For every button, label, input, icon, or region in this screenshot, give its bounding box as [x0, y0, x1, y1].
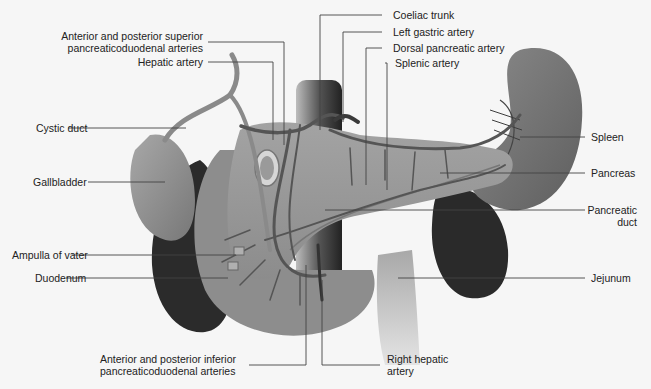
- label-duodenum: Duodenum: [35, 272, 86, 284]
- gallbladder: [130, 134, 195, 240]
- label-line-2: pancreaticoduodenal arteries: [100, 365, 236, 377]
- label-line-1: Anterior and posterior superior: [58, 30, 203, 42]
- anatomy-diagram: Anterior and posterior superior pancreat…: [0, 0, 651, 389]
- label-line-1: Pancreatic: [585, 204, 637, 216]
- label-line-1: Anterior and posterior inferior: [100, 353, 236, 365]
- label-dorsal-pancreatic-artery: Dorsal pancreatic artery: [393, 42, 504, 54]
- label-ant-post-inferior: Anterior and posterior inferior pancreat…: [100, 353, 236, 377]
- label-pancreatic-duct: Pancreatic duct: [585, 204, 637, 228]
- label-coeliac-trunk: Coeliac trunk: [393, 9, 454, 21]
- label-ampulla-of-vater: Ampulla of vater: [12, 249, 88, 261]
- label-line-2: artery: [387, 365, 448, 377]
- label-hepatic-artery: Hepatic artery: [58, 56, 203, 68]
- label-jejunum: Jejunum: [591, 272, 631, 284]
- label-line-1: Right hepatic: [387, 353, 448, 365]
- label-line-2: duct: [585, 216, 637, 228]
- label-spleen: Spleen: [591, 131, 624, 143]
- label-ant-post-superior: Anterior and posterior superior pancreat…: [58, 30, 203, 54]
- label-line-2: pancreaticoduodenal arteries: [58, 42, 203, 54]
- label-cystic-duct: Cystic duct: [36, 122, 87, 134]
- label-pancreas: Pancreas: [591, 167, 635, 179]
- jejunum: [377, 250, 420, 365]
- label-left-gastric-artery: Left gastric artery: [393, 26, 474, 38]
- label-gallbladder: Gallbladder: [33, 176, 87, 188]
- label-right-hepatic-artery: Right hepatic artery: [387, 353, 448, 377]
- label-splenic-artery: Splenic artery: [395, 57, 459, 69]
